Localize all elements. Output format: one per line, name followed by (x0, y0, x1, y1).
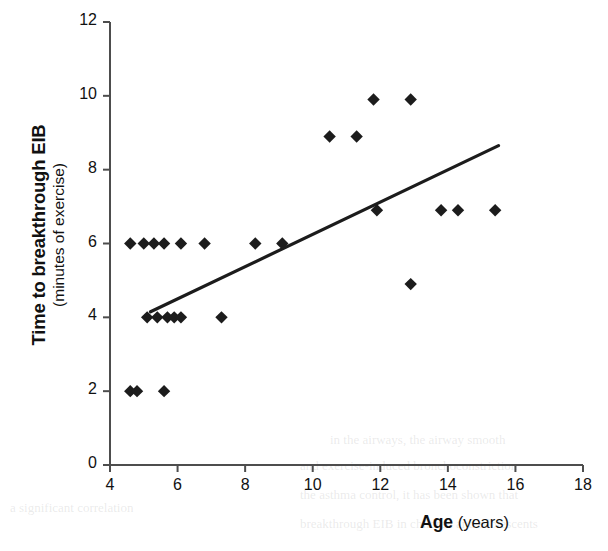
x-axis-tick-label: 10 (301, 476, 325, 494)
data-point-marker (249, 237, 261, 249)
data-point-marker (124, 237, 136, 249)
data-point-marker (215, 311, 227, 323)
x-axis-tick-label: 8 (233, 476, 257, 494)
y-axis-tick-label: 12 (69, 11, 97, 29)
x-axis-tick-label: 4 (98, 476, 122, 494)
data-point-marker (489, 204, 501, 216)
data-point-marker (350, 130, 362, 142)
x-axis-tick-label: 14 (436, 476, 460, 494)
data-point-marker (175, 237, 187, 249)
data-point-marker (198, 237, 210, 249)
data-point-marker (158, 385, 170, 397)
x-axis-tick-label: 16 (503, 476, 527, 494)
y-axis-tick-label: 4 (69, 306, 97, 324)
x-axis-tick-label: 18 (571, 476, 595, 494)
x-axis-tick-label: 12 (368, 476, 392, 494)
data-point-marker (158, 237, 170, 249)
data-point-marker (404, 93, 416, 105)
trendline (151, 146, 499, 312)
data-point-marker (452, 204, 464, 216)
y-axis-tick-label: 6 (69, 233, 97, 251)
x-axis-tick-label: 6 (166, 476, 190, 494)
data-point-marker (367, 93, 379, 105)
plot-area: 0246810124681012141618 (0, 0, 608, 551)
y-axis-tick-label: 8 (69, 159, 97, 177)
data-point-marker (404, 278, 416, 290)
data-point-marker (175, 311, 187, 323)
data-point-marker (435, 204, 447, 216)
y-axis-tick-label: 0 (69, 454, 97, 472)
y-axis-tick-label: 10 (69, 85, 97, 103)
y-axis-tick-label: 2 (69, 380, 97, 398)
data-point-marker (131, 385, 143, 397)
scatter-plot-figure: in the airways, the airway smoothand exe… (0, 0, 608, 551)
data-point-marker (323, 130, 335, 142)
